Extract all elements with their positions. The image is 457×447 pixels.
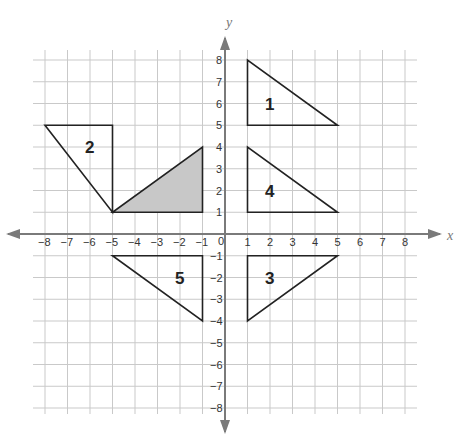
y-tick-label: 4 xyxy=(216,141,222,153)
y-tick-label: 3 xyxy=(216,163,222,175)
y-tick-label: −3 xyxy=(210,293,223,305)
x-tick-label: 6 xyxy=(357,236,363,248)
x-tick-label: 2 xyxy=(267,236,273,248)
x-tick-label: 4 xyxy=(312,236,318,248)
triangle-label-1: 1 xyxy=(265,95,274,114)
y-axis-down-arrow-icon xyxy=(220,420,230,434)
x-tick-label: −2 xyxy=(173,236,186,248)
triangle-label-5: 5 xyxy=(175,269,184,288)
y-axis-label: y xyxy=(224,15,233,30)
x-tick-label: 3 xyxy=(290,236,296,248)
y-tick-label: 1 xyxy=(216,206,222,218)
origin-label: 0 xyxy=(218,235,224,247)
triangle-label-4: 4 xyxy=(265,182,275,201)
y-tick-label: 5 xyxy=(216,119,222,131)
x-axis-label: x xyxy=(446,228,454,243)
x-tick-label: −7 xyxy=(61,236,74,248)
y-tick-label: 8 xyxy=(216,54,222,66)
y-tick-label: 6 xyxy=(216,98,222,110)
x-tick-label: −5 xyxy=(106,236,119,248)
y-tick-label: −2 xyxy=(210,272,223,284)
y-tick-label: −5 xyxy=(210,337,223,349)
y-axis-up-arrow-icon xyxy=(220,36,230,50)
x-tick-label: −3 xyxy=(151,236,164,248)
x-tick-label: −8 xyxy=(38,236,51,248)
triangle-label-3: 3 xyxy=(265,269,274,288)
x-tick-label: 7 xyxy=(380,236,386,248)
y-tick-label: −6 xyxy=(210,359,223,371)
x-tick-label: 8 xyxy=(402,236,408,248)
y-tick-label: −8 xyxy=(210,402,223,414)
x-tick-label: −6 xyxy=(83,236,96,248)
triangle-label-2: 2 xyxy=(85,138,94,157)
coordinate-plane: 12345 x y 0 −8−7−6−5−4−3−2−1123456788765… xyxy=(0,0,457,447)
y-tick-label: 7 xyxy=(216,76,222,88)
x-axis-right-arrow-icon xyxy=(428,229,442,239)
x-tick-label: 5 xyxy=(335,236,341,248)
y-tick-label: −7 xyxy=(210,380,223,392)
x-tick-label: −4 xyxy=(128,236,141,248)
y-tick-label: −1 xyxy=(210,250,223,262)
x-tick-label: −1 xyxy=(196,236,209,248)
x-tick-label: 1 xyxy=(245,236,251,248)
axes: x y 0 xyxy=(6,15,454,434)
x-axis-left-arrow-icon xyxy=(6,229,20,239)
y-tick-label: −4 xyxy=(210,315,223,327)
y-tick-label: 2 xyxy=(216,185,222,197)
